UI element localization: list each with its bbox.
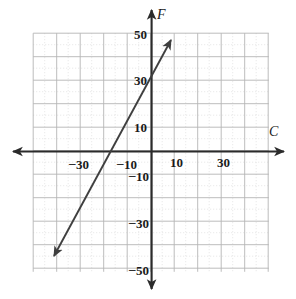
x-tick-label-neg30: –30 (69, 156, 89, 171)
y-axis-label: F (157, 8, 166, 22)
x-tick-label-30: 30 (217, 156, 230, 169)
y-tick-label-30: 30 (134, 74, 147, 87)
y-tick-label-neg10: –10 (129, 168, 149, 183)
x-tick-label-10: 10 (170, 156, 183, 169)
y-tick-label-10: 10 (134, 121, 147, 134)
x-axis-label: C (269, 125, 278, 139)
plotted-line-series (54, 40, 171, 256)
y-tick-label-50: 50 (134, 28, 147, 41)
coordinate-graph (0, 0, 296, 299)
y-tick-label-neg50: –50 (129, 262, 149, 277)
y-tick-label-neg30: –30 (129, 215, 149, 230)
